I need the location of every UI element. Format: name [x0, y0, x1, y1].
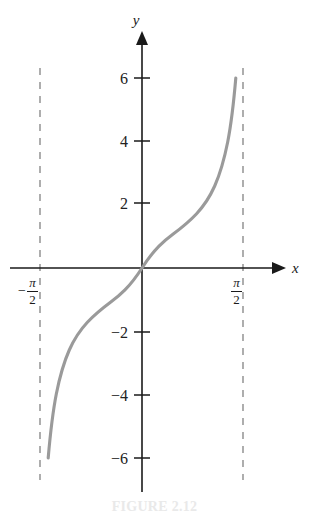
- fraction-denominator: 2: [231, 293, 242, 307]
- fraction-stack: π 2: [231, 276, 242, 306]
- x-tick-label-pi-over-2: π 2: [231, 276, 242, 306]
- y-axis-label: y: [131, 12, 140, 28]
- x-axis-label: x: [291, 260, 299, 276]
- x-axis-arrow-icon: [272, 262, 286, 274]
- y-tick-label-neg-4: −4: [111, 387, 128, 404]
- figure-caption: FIGURE 2.12: [0, 499, 309, 516]
- minus-sign: −: [18, 284, 26, 299]
- y-tick-label-6: 6: [120, 70, 128, 87]
- plot-canvas: y x 6 4 2 −2 −4 −6: [0, 0, 309, 516]
- fraction-stack: π 2: [27, 276, 38, 306]
- y-tick-label-4: 4: [120, 133, 128, 150]
- fraction-numerator: π: [27, 276, 38, 290]
- figure-tangent-graph: y x 6 4 2 −2 −4 −6 − π 2: [0, 0, 309, 516]
- x-tick-label-neg-pi-over-2: − π 2: [18, 276, 38, 306]
- fraction-denominator: 2: [27, 293, 38, 307]
- y-tick-label-2: 2: [120, 195, 128, 212]
- y-tick-label-neg-6: −6: [111, 450, 128, 467]
- y-axis-arrow-icon: [136, 31, 148, 45]
- y-tick-label-neg-2: −2: [111, 324, 128, 341]
- fraction-numerator: π: [231, 276, 242, 290]
